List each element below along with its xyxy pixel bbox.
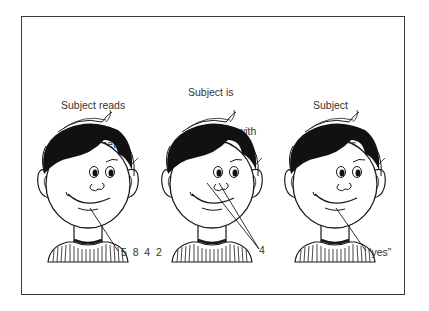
- faces-illustration: [0, 0, 429, 311]
- panel-3-pointer-label: “yes”: [368, 246, 391, 258]
- face-3-icon: [285, 110, 386, 262]
- face-2-icon: [162, 110, 263, 262]
- panel-2-pointer-label: 4: [259, 244, 265, 256]
- face-1-icon: [38, 110, 139, 262]
- panel-1-pointer-label: 5 8 4 2: [121, 246, 162, 258]
